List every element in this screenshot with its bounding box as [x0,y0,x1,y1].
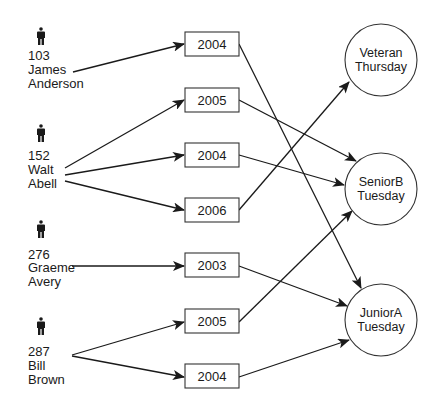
edge-152-2006 [65,181,184,210]
team-name: Veteran [359,46,402,60]
edge-2003-juniora [239,266,347,306]
person-first-name: Bill [28,358,45,373]
person-last-name: Avery [28,274,61,289]
year-box-1: 2005 [185,88,239,112]
year-box-5: 2005 [185,309,239,333]
person-287: 287 Bill Brown [28,317,65,387]
team-day: Tuesday [357,320,405,334]
edge-2006-veteran [239,82,349,210]
year-label: 2005 [198,93,227,108]
person-id: 152 [28,148,50,163]
team-name: JuniorA [360,306,403,320]
person-276: 276 Graeme Avery [28,220,75,289]
team-seniorb: SeniorB Tuesday [345,153,417,225]
person-year-edges [65,44,184,377]
edge-103-2004 [73,44,184,72]
edge-2005-seniorb-2 [239,211,352,322]
year-box-6: 2004 [185,364,239,388]
year-label: 2004 [198,148,227,163]
team-name: SeniorB [359,175,403,189]
year-team-edges [239,44,361,377]
year-label: 2004 [198,37,227,52]
year-label: 2006 [198,203,227,218]
year-label: 2004 [198,369,227,384]
person-152: 152 Walt Abell [28,124,57,191]
person-last-name: Anderson [28,76,84,91]
edge-2004-juniora-2 [239,340,349,377]
year-label: 2005 [198,314,227,329]
year-box-4: 2003 [185,253,239,277]
year-box-2: 2004 [185,143,239,167]
team-veteran: Veteran Thursday [345,24,417,96]
person-first-name: Walt [28,162,54,177]
person-103: 103 James Anderson [28,27,84,91]
team-day: Tuesday [357,189,405,203]
team-juniora: JuniorA Tuesday [345,284,417,356]
person-first-name: Graeme [28,260,75,275]
year-label: 2003 [198,258,227,273]
edge-287-2004 [72,356,184,377]
edge-2004-juniora [239,44,361,288]
diagram-canvas: 103 James Anderson 152 Walt Abell 276 Gr… [0,0,439,405]
person-last-name: Brown [28,372,65,387]
person-icon [37,317,45,335]
person-icon [37,220,45,238]
person-first-name: James [28,62,67,77]
person-last-name: Abell [28,176,57,191]
person-id: 103 [28,48,50,63]
person-icon [37,27,45,45]
year-box-3: 2006 [185,198,239,222]
year-box-0: 2004 [185,32,239,56]
edge-2004-seniorb [239,155,344,185]
edge-287-2005 [72,322,184,355]
edge-2005-seniorb [239,100,356,161]
person-id: 287 [28,344,50,359]
person-icon [37,124,45,142]
team-day: Thursday [355,60,408,74]
